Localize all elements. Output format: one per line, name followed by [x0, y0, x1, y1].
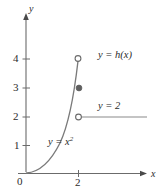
filled-point-2-3 — [76, 85, 82, 91]
function-graph-figure: y x 0 4 3 2 1 2 y = h(x) y = 2 y = x2 — [0, 0, 161, 192]
x-axis-label: x — [151, 169, 155, 179]
graph-canvas — [0, 0, 161, 192]
y-tick-label-4: 4 — [13, 53, 19, 64]
y-tick-label-2: 2 — [13, 111, 19, 122]
parabola-curve — [27, 61, 79, 173]
y-axis-arrowhead — [23, 13, 29, 20]
x-tick-label-2: 2 — [75, 177, 81, 188]
y-tick-label-1: 1 — [14, 140, 20, 151]
parabola-function-label-exponent: 2 — [70, 135, 74, 143]
h-function-label: y = h(x) — [98, 50, 132, 61]
y-axis-label: y — [29, 4, 33, 14]
parabola-function-label: y = x2 — [48, 137, 73, 148]
open-circle-point-2-4 — [75, 56, 81, 62]
origin-label: 0 — [17, 176, 23, 187]
y-tick-label-3: 3 — [13, 82, 19, 93]
constant-line-label: y = 2 — [98, 101, 120, 112]
x-axis-arrowhead — [140, 171, 147, 176]
parabola-function-label-base: y = x — [48, 136, 70, 147]
open-circle-point-2-2 — [76, 114, 82, 120]
